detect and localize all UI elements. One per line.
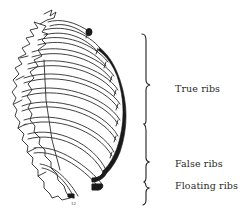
vertebral-column: [12, 10, 70, 200]
curly-brace: [142, 34, 150, 205]
label-false-ribs: False ribs: [175, 159, 223, 169]
costal-cartilage: [68, 29, 126, 199]
label-floating-ribs: Floating ribs: [175, 181, 238, 191]
rib-number-marker: 12: [71, 201, 77, 206]
rib-cage-diagram: 12 True ribs False ribs Floating ribs: [0, 0, 240, 214]
label-true-ribs: True ribs: [175, 84, 220, 94]
